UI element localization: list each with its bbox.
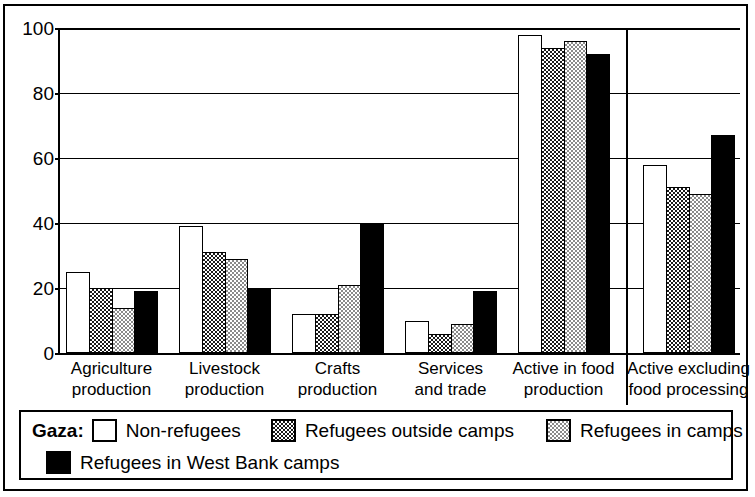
x-axis-label-line: Active excluding: [620, 358, 755, 379]
gridline-20: [60, 288, 740, 289]
bar-group: [405, 28, 496, 353]
bar: [202, 252, 226, 353]
bar: [89, 288, 113, 353]
chart-figure-frame: 020406080100 AgricultureproductionLivest…: [3, 4, 748, 491]
y-tick-label-40: 40: [33, 214, 54, 233]
legend-label-refugees-outside-camps: Refugees outside camps: [305, 421, 514, 440]
x-axis-label: Active excludingfood processing: [620, 358, 755, 400]
legend-label-non-refugees: Non-refugees: [126, 421, 241, 440]
y-tick-label-80: 80: [33, 84, 54, 103]
bar: [134, 291, 158, 353]
bar: [689, 194, 713, 353]
y-tick-label-60: 60: [33, 149, 54, 168]
plot-area: 020406080100: [58, 28, 740, 355]
bar: [473, 291, 497, 353]
bar-group: [518, 28, 609, 353]
bar: [405, 321, 429, 354]
y-tick-label-20: 20: [33, 279, 54, 298]
y-tick-mark-80: [55, 93, 60, 95]
legend-swatch-lightgray: [546, 419, 571, 442]
x-axis-label-line: Active in food: [495, 358, 632, 379]
x-axis-label-line: food processing: [620, 379, 755, 400]
x-axis-label-line: production: [495, 379, 632, 400]
x-axis-label: Active in foodproduction: [495, 358, 632, 400]
bar: [179, 226, 203, 353]
bar-group: [179, 28, 270, 353]
bar-group: [66, 28, 157, 353]
legend-row-1: Gaza: Non-refugees Refugees outside camp…: [21, 414, 731, 447]
plot-inner: 020406080100: [60, 28, 740, 353]
gridline-80: [60, 93, 740, 94]
y-tick-label-100: 100: [22, 19, 54, 38]
y-tick-mark-40: [55, 223, 60, 225]
legend-label-refugees-in-camps: Refugees in camps: [580, 421, 743, 440]
legend-entry-refugees-west-bank-camps: Refugees in West Bank camps: [46, 451, 339, 474]
bar: [315, 314, 339, 353]
bar: [518, 35, 542, 354]
legend-label-refugees-west-bank-camps: Refugees in West Bank camps: [80, 453, 339, 472]
x-axis-labels: AgricultureproductionLivestockproduction…: [58, 358, 740, 404]
gridline-40: [60, 223, 740, 224]
legend-row-2: Refugees in West Bank camps: [21, 446, 731, 479]
bar: [225, 259, 249, 353]
gridline-100: [60, 28, 740, 30]
legend-swatch-darkgray: [271, 419, 296, 442]
legend-title: Gaza:: [32, 420, 84, 442]
legend-entry-non-refugees: Non-refugees: [92, 419, 241, 442]
y-tick-mark-100: [55, 28, 60, 30]
bar: [112, 308, 136, 354]
bar: [247, 288, 271, 353]
legend-entry-refugees-outside-camps: Refugees outside camps: [271, 419, 514, 442]
bar: [66, 272, 90, 353]
y-tick-mark-20: [55, 288, 60, 290]
bar: [451, 324, 475, 353]
bar: [666, 187, 690, 353]
legend-swatch-black: [46, 451, 71, 474]
bar: [541, 48, 565, 354]
bar: [643, 165, 667, 354]
y-tick-mark-0: [55, 353, 60, 355]
y-tick-mark-60: [55, 158, 60, 160]
bar: [360, 223, 384, 353]
group-divider-line: [626, 28, 628, 405]
bar: [564, 41, 588, 353]
bar-group: [643, 28, 734, 353]
bar: [428, 334, 452, 354]
bar: [586, 54, 610, 353]
gridline-60: [60, 158, 740, 159]
bar: [711, 135, 735, 353]
chart-legend: Gaza: Non-refugees Refugees outside camp…: [19, 410, 733, 480]
legend-entry-refugees-in-camps: Refugees in camps: [546, 419, 743, 442]
bar: [292, 314, 316, 353]
bar-group: [292, 28, 383, 353]
bar: [338, 285, 362, 353]
legend-swatch-white: [92, 419, 117, 442]
